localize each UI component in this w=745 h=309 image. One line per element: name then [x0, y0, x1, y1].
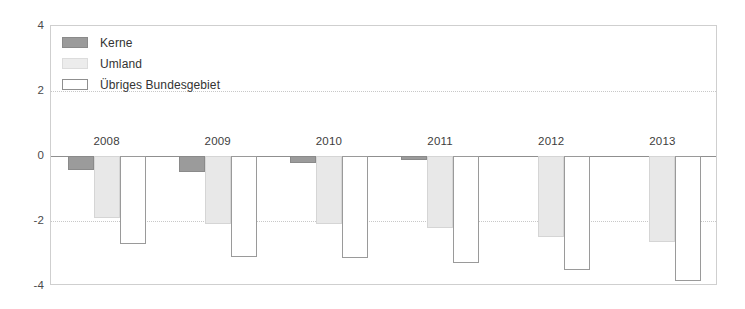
y-tick-label: -4: [2, 279, 44, 291]
bar-kerne-2009: [179, 156, 205, 172]
y-axis: 420-2-4: [0, 25, 44, 285]
legend-label: Kerne: [100, 36, 133, 50]
bar-uebriges-2013: [675, 156, 701, 281]
legend-item-kerne: Kerne: [62, 32, 282, 53]
bar-kerne-2011: [401, 156, 427, 160]
bar-umland-2012: [538, 156, 564, 237]
bar-group: 2011: [385, 26, 496, 284]
legend-label: Umland: [100, 57, 142, 71]
bar-umland-2011: [427, 156, 453, 228]
bar-uebriges-2010: [342, 156, 368, 258]
x-tick-label: 2010: [273, 135, 384, 147]
bar-uebriges-2012: [564, 156, 590, 270]
x-tick-label: 2009: [162, 135, 273, 147]
bar-kerne-2008: [68, 156, 94, 170]
y-tick-label: 2: [2, 84, 44, 96]
y-tick-label: -2: [2, 214, 44, 226]
bar-group: 2013: [607, 26, 718, 284]
chart-legend: KerneUmlandÜbriges Bundesgebiet: [62, 32, 282, 95]
bar-chart: 420-2-4 200820092010201120122013 KerneUm…: [0, 0, 745, 309]
bar-group: 2012: [496, 26, 607, 284]
bar-uebriges-2008: [120, 156, 146, 244]
bar-group: 2010: [273, 26, 384, 284]
bar-umland-2009: [205, 156, 231, 224]
y-tick-label: 0: [2, 149, 44, 161]
legend-swatch-icon: [62, 37, 88, 48]
y-tick-label: 4: [2, 19, 44, 31]
bar-uebriges-2009: [231, 156, 257, 257]
legend-item-umland: Umland: [62, 53, 282, 74]
legend-item-uebriges: Übriges Bundesgebiet: [62, 74, 282, 95]
x-tick-label: 2013: [607, 135, 718, 147]
bar-umland-2008: [94, 156, 120, 218]
bar-umland-2013: [649, 156, 675, 242]
legend-swatch-icon: [62, 58, 88, 69]
bar-umland-2010: [316, 156, 342, 224]
legend-swatch-icon: [62, 79, 88, 90]
legend-label: Übriges Bundesgebiet: [100, 78, 220, 92]
x-tick-label: 2011: [385, 135, 496, 147]
x-tick-label: 2012: [496, 135, 607, 147]
x-tick-label: 2008: [51, 135, 162, 147]
bar-kerne-2010: [290, 156, 316, 163]
bar-uebriges-2011: [453, 156, 479, 263]
